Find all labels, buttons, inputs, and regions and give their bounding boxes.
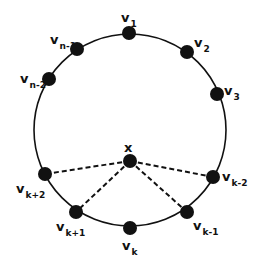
dashed-edge-x-vk+1 <box>76 161 130 212</box>
vertex-label-vk+1: vk+1 <box>56 219 85 238</box>
vertex-x <box>123 154 137 168</box>
vertex-label-vn-2: vn-2 <box>20 71 46 90</box>
vertex-labels: xv1v2v3vn-1vn-2vk-2vk-1vkvk+1vk+2 <box>16 10 247 257</box>
vertex-label-v2: v2 <box>194 35 210 54</box>
vertex-vk <box>123 221 137 235</box>
vertex-label-vn-1: vn-1 <box>50 32 76 51</box>
vertex-vk+2 <box>38 167 52 181</box>
vertex-label-x: x <box>124 140 133 155</box>
vertex-v3 <box>210 87 224 101</box>
vertex-vk-1 <box>180 205 194 219</box>
cycle-circle <box>34 34 226 226</box>
dashed-edge-x-vk-1 <box>130 161 187 212</box>
vertex-label-vk-1: vk-1 <box>193 218 218 237</box>
vertex-label-vk+2: vk+2 <box>16 181 45 200</box>
cycle-graph-diagram: xv1v2v3vn-1vn-2vk-2vk-1vkvk+1vk+2 <box>0 0 256 266</box>
vertices <box>38 26 224 235</box>
dashed-edge-x-vk-2 <box>130 161 213 177</box>
vertex-label-vk: vk <box>122 238 138 257</box>
vertex-vk+1 <box>69 205 83 219</box>
vertex-vk-2 <box>206 170 220 184</box>
vertex-v2 <box>180 45 194 59</box>
vertex-label-v3: v3 <box>224 83 240 102</box>
vertex-label-vk-2: vk-2 <box>222 169 247 188</box>
